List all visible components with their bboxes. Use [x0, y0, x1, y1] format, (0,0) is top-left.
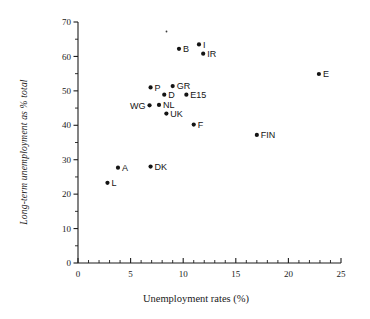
data-point-marker	[197, 42, 201, 46]
data-point-label: P	[155, 83, 161, 93]
x-tick-label: 5	[128, 269, 133, 279]
x-tick-label: 10	[179, 269, 189, 279]
y-tick-label: 10	[62, 224, 72, 234]
data-point-label: E	[323, 69, 329, 79]
data-point-marker	[148, 165, 152, 169]
y-axis-title: Long-term unemployment as % total	[19, 79, 29, 226]
y-tick-label: 60	[62, 52, 72, 62]
data-point-marker	[192, 122, 196, 126]
data-point: IR	[201, 49, 217, 59]
data-point-marker	[317, 72, 321, 76]
y-axis-ticks	[74, 22, 79, 263]
data-point-marker	[105, 181, 109, 185]
data-point-marker	[116, 166, 120, 170]
x-tick-label: 15	[231, 269, 241, 279]
x-axis-ticks	[78, 258, 341, 263]
x-tick-label: 0	[76, 269, 81, 279]
data-point-marker	[201, 52, 205, 56]
data-point: D	[162, 90, 175, 100]
data-point-marker	[148, 85, 152, 89]
data-point-label: D	[168, 90, 175, 100]
data-point-label: F	[198, 120, 204, 130]
y-tick-label: 70	[62, 17, 72, 27]
data-point: A	[116, 163, 128, 173]
data-point-label: UK	[170, 109, 183, 119]
data-point: B	[177, 44, 189, 54]
scatter-plot-figure: 010203040506070 0510152025 LADKWGPNLDUKG…	[0, 0, 370, 319]
data-point-label: DK	[155, 162, 168, 172]
data-point-label: I	[203, 40, 206, 50]
stray-speck-mark	[166, 31, 168, 33]
data-point: F	[192, 120, 204, 130]
data-point-marker	[162, 93, 166, 97]
x-axis-tick-labels: 0510152025	[76, 269, 346, 279]
data-point: E	[317, 69, 329, 79]
data-point: P	[148, 83, 160, 93]
data-point-label: A	[122, 163, 128, 173]
data-point: WG	[130, 101, 152, 111]
y-tick-label: 40	[62, 120, 72, 130]
data-point-marker	[177, 47, 181, 51]
data-point-label: WG	[130, 101, 146, 111]
y-axis-tick-labels: 010203040506070	[62, 17, 72, 268]
data-point-label: B	[183, 44, 189, 54]
data-point-label: FIN	[261, 130, 276, 140]
data-point-marker	[255, 133, 259, 137]
data-point-label: IR	[207, 49, 217, 59]
y-tick-label: 0	[67, 258, 72, 268]
y-tick-label: 50	[62, 86, 72, 96]
data-point: L	[105, 178, 116, 188]
data-point: E15	[184, 90, 206, 100]
data-point-marker	[164, 111, 168, 115]
data-point-marker	[157, 103, 161, 107]
x-tick-label: 25	[337, 269, 347, 279]
data-point-label: GR	[177, 81, 191, 91]
data-point: UK	[164, 109, 183, 119]
data-point: FIN	[255, 130, 276, 140]
x-axis-title: Unemployment rates (%)	[143, 293, 250, 305]
data-point-series: LADKWGPNLDUKGRBE15FIIRFINE	[105, 40, 329, 188]
data-point-marker	[184, 93, 188, 97]
y-tick-label: 20	[62, 189, 72, 199]
data-point-label: E15	[190, 90, 206, 100]
data-point-label: L	[111, 178, 116, 188]
data-point-marker	[171, 84, 175, 88]
plot-canvas: 010203040506070 0510152025 LADKWGPNLDUKG…	[0, 0, 370, 319]
y-tick-label: 30	[62, 155, 72, 165]
data-point-marker	[147, 103, 151, 107]
data-point: DK	[148, 162, 167, 172]
x-tick-label: 20	[284, 269, 294, 279]
data-point: I	[197, 40, 206, 50]
